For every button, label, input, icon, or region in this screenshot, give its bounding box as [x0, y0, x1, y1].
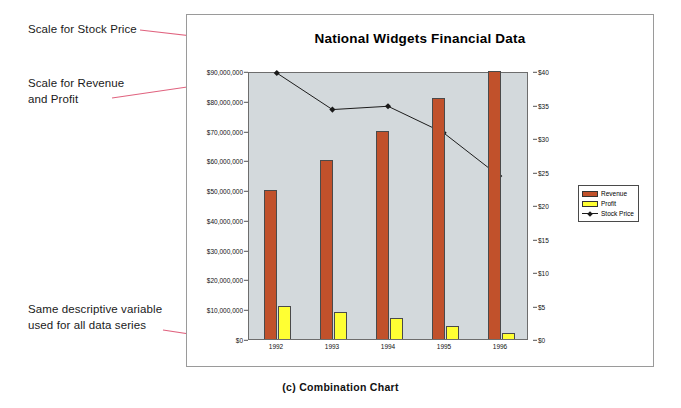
y-axis-left: $0$10,000,000$20,000,000$30,000,000$40,0…: [186, 72, 248, 340]
bar-revenue: [432, 98, 445, 339]
bar-revenue: [264, 190, 277, 339]
tick-mark: [533, 239, 537, 240]
bar-profit: [446, 326, 459, 339]
legend-item-stock-price: Stock Price: [582, 209, 634, 218]
bar-profit: [278, 306, 291, 339]
tick-mark: [533, 72, 537, 73]
tick-mark: [533, 306, 537, 307]
x-axis-tick-1996: 1996: [493, 343, 507, 350]
bar-profit: [390, 318, 403, 339]
x-axis: 19921993199419951996: [248, 343, 528, 357]
chart-title: National Widgets Financial Data: [187, 31, 653, 46]
annotation-same-descriptive-variable: Same descriptive variable used for all d…: [28, 302, 162, 333]
plot-area: [248, 72, 528, 340]
stock-price-marker: [329, 106, 335, 112]
legend-swatch: [582, 191, 598, 197]
y-axis-right: $0$5$10$15$20$25$30$35$40: [529, 72, 581, 340]
legend-item-profit: Profit: [582, 199, 634, 208]
x-axis-tick-1993: 1993: [325, 343, 339, 350]
bar-revenue: [320, 160, 333, 339]
legend-label: Revenue: [601, 189, 627, 198]
tick-mark: [533, 139, 537, 140]
legend-label: Stock Price: [601, 209, 634, 218]
legend-line-marker-icon: [582, 210, 598, 217]
x-axis-tick-1995: 1995: [437, 343, 451, 350]
bar-profit: [334, 312, 347, 339]
tick-mark: [533, 273, 537, 274]
x-axis-tick-1994: 1994: [381, 343, 395, 350]
tick-mark: [533, 340, 537, 341]
annotation-scale-for-stock-price: Scale for Stock Price: [28, 22, 137, 38]
legend-label: Profit: [601, 199, 616, 208]
figure-caption: (c) Combination Chart: [0, 381, 681, 393]
legend-item-revenue: Revenue: [582, 189, 634, 198]
tick-mark: [533, 206, 537, 207]
stock-price-marker: [385, 103, 391, 109]
bar-revenue: [376, 131, 389, 339]
bar-profit: [502, 333, 515, 339]
tick-mark: [533, 172, 537, 173]
chart-legend: RevenueProfitStock Price: [578, 185, 639, 222]
annotation-scale-for-revenue-and-profit: Scale for Revenue and Profit: [28, 76, 124, 107]
tick-mark: [533, 105, 537, 106]
legend-swatch: [582, 201, 598, 207]
x-axis-tick-1992: 1992: [269, 343, 283, 350]
bar-revenue: [488, 71, 501, 339]
